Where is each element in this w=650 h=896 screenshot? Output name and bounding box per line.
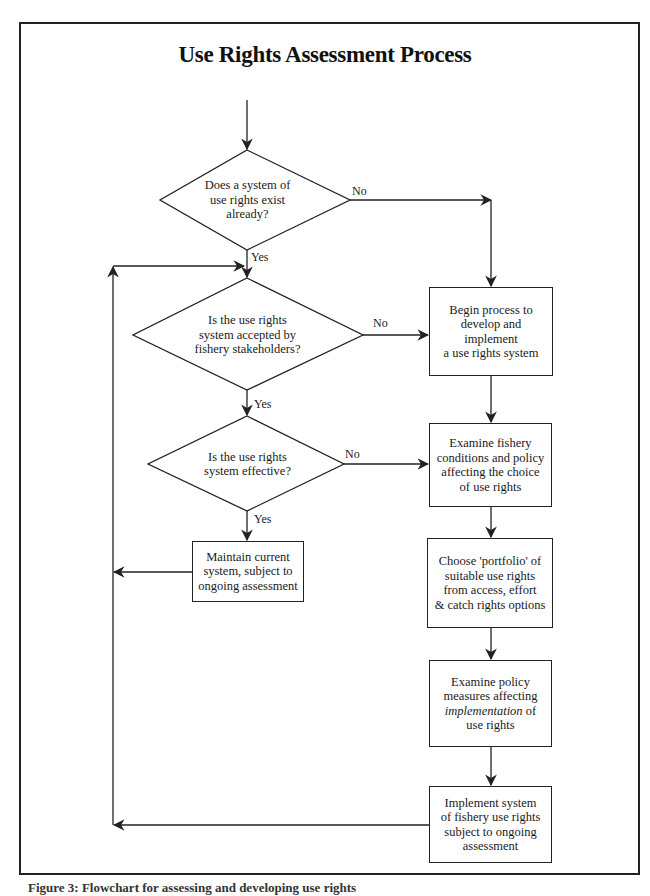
implement-line3: subject to ongoing [444, 825, 536, 840]
process-implement-system: Implement system of fishery use rights s… [429, 786, 552, 863]
decision-1-line3: already? [226, 207, 268, 222]
decision-2-text: Is the use rights system accepted by fis… [160, 311, 335, 359]
decision-1-line1: Does a system of [205, 178, 291, 193]
process-maintain-current: Maintain current system, subject to ongo… [192, 541, 304, 602]
process-choose-portfolio: Choose 'portfolio' of suitable use right… [427, 538, 553, 628]
choose-line1: Choose 'portfolio' of [439, 554, 541, 569]
begin-line3: a use rights system [444, 346, 539, 361]
decision-3-line2: system effective? [204, 464, 291, 479]
examine-policy-line3: implementation of [445, 704, 536, 719]
choose-line4: & catch rights options [435, 598, 546, 613]
implementation-emphasis: implementation [445, 704, 523, 718]
examine-conditions-line1: Examine fishery [449, 436, 531, 451]
implement-line2: of fishery use rights [441, 810, 541, 825]
decision-3-yes-label: Yes [254, 512, 271, 527]
examine-conditions-line3: affecting the choice [441, 465, 539, 480]
decision-1-text: Does a system of use rights exist alread… [175, 176, 320, 224]
examine-policy-line2: measures affecting [444, 689, 538, 704]
decision-3-line1: Is the use rights [208, 450, 287, 465]
decision-3-no-label: No [345, 447, 360, 462]
decision-3-text: Is the use rights system effective? [170, 448, 325, 480]
examine-policy-line1: Examine policy [451, 675, 530, 690]
decision-1-no-label: No [352, 184, 367, 199]
choose-line3: from access, effort [443, 583, 536, 598]
examine-conditions-line4: of use rights [460, 480, 522, 495]
decision-2-line2: system accepted by [199, 328, 296, 343]
decision-2-no-label: No [373, 316, 388, 331]
maintain-line2: system, subject to [203, 564, 292, 579]
begin-line2: develop and implement [434, 317, 548, 346]
implement-line1: Implement system [445, 796, 537, 811]
implement-line4: assessment [463, 839, 519, 854]
maintain-line1: Maintain current [206, 550, 290, 565]
figure-caption: Figure 3: Flowchart for assessing and de… [28, 880, 356, 896]
decision-1-yes-label: Yes [251, 250, 268, 265]
choose-line2: suitable use rights [445, 569, 535, 584]
examine-policy-line4: use rights [466, 718, 514, 733]
decision-1-line2: use rights exist [210, 193, 285, 208]
maintain-line3: ongoing assessment [198, 579, 298, 594]
begin-line1: Begin process to [449, 303, 532, 318]
decision-2-line3: fishery stakeholders? [195, 342, 301, 357]
process-examine-conditions: Examine fishery conditions and policy af… [429, 423, 552, 507]
decision-2-yes-label: Yes [254, 397, 271, 412]
process-begin-develop: Begin process to develop and implement a… [429, 287, 553, 376]
process-examine-policy: Examine policy measures affecting implem… [429, 660, 552, 747]
examine-conditions-line2: conditions and policy [437, 451, 545, 466]
examine-policy-line3-rest: of [523, 704, 537, 718]
decision-2-line1: Is the use rights [208, 313, 287, 328]
